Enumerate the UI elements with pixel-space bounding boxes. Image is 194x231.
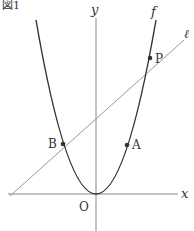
y-axis-label: y bbox=[90, 2, 99, 17]
point-a-label: A bbox=[131, 138, 141, 152]
x-axis-label: x bbox=[181, 186, 189, 201]
origin-label: O bbox=[79, 200, 89, 214]
line-l-label: ℓ bbox=[184, 27, 189, 41]
parabola-f-label: f bbox=[150, 4, 158, 19]
point-b-label: B bbox=[48, 137, 57, 151]
point-p-label: P bbox=[155, 52, 163, 66]
coordinate-figure: 図1 x y O ℓ f B A P bbox=[0, 0, 194, 231]
figure-caption: 図1 bbox=[2, 0, 20, 12]
point-a bbox=[125, 143, 130, 148]
point-b bbox=[61, 142, 66, 147]
point-p bbox=[148, 56, 153, 61]
